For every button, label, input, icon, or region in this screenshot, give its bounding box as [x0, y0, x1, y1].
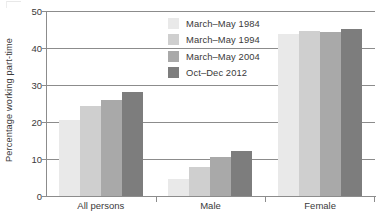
chart-legend: March–May 1984March–May 1994March–May 20… — [168, 15, 298, 81]
legend-swatch-march-may-2004 — [168, 51, 179, 62]
legend-item: March–May 2004 — [168, 48, 298, 65]
y-tick-label-40: 40 — [20, 43, 42, 54]
x-category-label-female: Female — [265, 199, 375, 213]
x-category-label-male: Male — [156, 199, 266, 213]
bar — [168, 179, 189, 196]
bar — [299, 31, 320, 196]
y-tick-label-0: 0 — [20, 191, 42, 202]
legend-swatch-oct-dec-2012 — [168, 67, 179, 78]
bar — [189, 167, 210, 196]
x-axis-line — [46, 196, 376, 197]
bar — [231, 151, 252, 196]
legend-label: Oct–Dec 2012 — [186, 67, 247, 78]
legend-swatch-march-may-1984 — [168, 18, 179, 29]
bar-group — [46, 11, 156, 196]
legend-swatch-march-may-1994 — [168, 34, 179, 45]
y-tick-label-20: 20 — [20, 117, 42, 128]
bar — [320, 32, 341, 196]
legend-label: March–May 2004 — [186, 51, 260, 62]
bar — [122, 92, 143, 196]
x-category-label-all-persons: All persons — [46, 199, 156, 213]
y-tick-label-50: 50 — [20, 6, 42, 17]
bar — [210, 157, 231, 196]
bar — [341, 29, 362, 196]
y-tick-mark-0 — [42, 196, 46, 197]
bar — [101, 100, 122, 196]
y-tick-label-10: 10 — [20, 154, 42, 165]
bar — [59, 120, 80, 196]
legend-label: March–May 1994 — [186, 34, 260, 45]
y-axis-tick-labels: 01020304050 — [18, 0, 42, 222]
y-tick-label-30: 30 — [20, 80, 42, 91]
y-axis-title: Percentage working part-time — [2, 2, 16, 198]
bar-chart: Percentage working part-time 01020304050… — [0, 0, 383, 222]
legend-label: March–May 1984 — [186, 18, 260, 29]
legend-item: Oct–Dec 2012 — [168, 65, 298, 82]
bar — [80, 106, 101, 196]
legend-item: March–May 1984 — [168, 15, 298, 32]
legend-item: March–May 1994 — [168, 32, 298, 49]
